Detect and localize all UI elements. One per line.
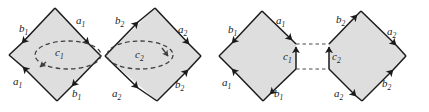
label-b1-lower-right: b1 <box>72 87 81 102</box>
label-b1-upper-left: b1 <box>19 22 28 37</box>
label-b1-upper-left-cut: b1 <box>228 23 237 38</box>
label-b2-lower-right: b2 <box>175 78 185 93</box>
label-b2-upper-left-cut: b2 <box>336 13 346 28</box>
diamond-a2b2-cut: b2 a2 a2 b2 c2 <box>329 11 406 102</box>
diamond-a1b1-cut: b1 a1 a1 b1 c1 <box>219 11 296 102</box>
label-a1-upper-right: a1 <box>76 14 85 29</box>
label-a2-lower-left-cut: a2 <box>334 87 344 102</box>
diagram-svg: b1 a1 a1 b1 c1 b2 a2 a2 <box>0 0 429 112</box>
label-b2-lower-right-cut: b2 <box>382 77 392 92</box>
label-a1-lower-left: a1 <box>13 75 22 90</box>
diamond-a1b1: b1 a1 a1 b1 c1 <box>9 8 101 102</box>
diamond-a2b2: b2 a2 a2 b2 c2 <box>105 8 201 102</box>
label-a2-lower-left: a2 <box>112 87 122 102</box>
label-b1-lower-right-cut: b1 <box>274 87 283 102</box>
label-b2-upper-left: b2 <box>115 14 125 29</box>
left-panel: b1 a1 a1 b1 c1 b2 a2 a2 <box>9 8 201 102</box>
label-a1-lower-left-cut: a1 <box>222 76 231 91</box>
figure-canvas: b1 a1 a1 b1 c1 b2 a2 a2 <box>0 0 429 112</box>
right-panel: b1 a1 a1 b1 c1 b2 a2 a2 b2 c2 <box>219 11 406 102</box>
